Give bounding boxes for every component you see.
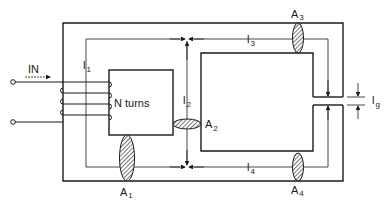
terminal-top-icon	[11, 80, 16, 85]
cross-section-a2-icon	[173, 119, 201, 129]
cross-section-a4-icon	[293, 153, 304, 181]
core-window-right	[201, 53, 313, 151]
label-lg: lg	[372, 94, 380, 109]
magnetic-circuit-diagram: IN N turns l1 l2 l3 l4 lg A1 A2 A3 A4	[0, 0, 390, 209]
label-a3: A3	[291, 8, 304, 22]
cross-section-a3-icon	[293, 23, 304, 53]
winding-label: N turns	[114, 97, 150, 109]
label-l4: l4	[247, 161, 255, 176]
winding	[11, 80, 112, 125]
label-a2: A2	[205, 118, 218, 133]
label-l3: l3	[247, 33, 255, 48]
label-l1: l1	[83, 59, 91, 74]
path-l3	[194, 39, 328, 95]
label-a1: A1	[120, 186, 133, 200]
label-a4: A4	[291, 184, 304, 198]
dimension-arrows	[25, 39, 365, 167]
path-l4	[194, 107, 328, 167]
input-label: IN	[28, 63, 39, 75]
terminal-bottom-icon	[11, 120, 16, 125]
cross-section-a1-icon	[120, 135, 135, 181]
